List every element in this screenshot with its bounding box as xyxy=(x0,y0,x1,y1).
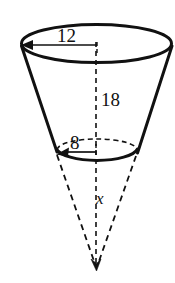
right-slant-side xyxy=(138,46,173,153)
bottom-ellipse-back-arc xyxy=(57,139,137,150)
bottom-ellipse-front-arc xyxy=(57,149,138,160)
frustum-diagram-canvas xyxy=(0,0,175,283)
bottom-radius-label: 8 xyxy=(70,133,80,152)
left-slant-side xyxy=(22,46,58,152)
frustum-height-label: 18 xyxy=(101,90,120,109)
left-apex-line xyxy=(57,155,95,264)
geometry-figure: 12 18 8 x xyxy=(0,0,175,283)
apex-height-label: x xyxy=(96,190,104,207)
top-radius-label: 12 xyxy=(57,26,76,45)
right-apex-line xyxy=(98,156,136,264)
